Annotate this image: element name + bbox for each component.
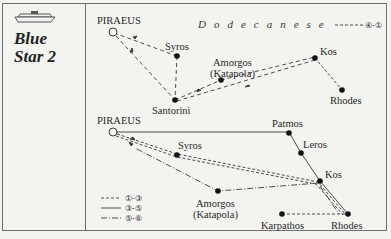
region-label-dodecanese: Dodecanese xyxy=(197,18,332,30)
port-label-amorgos: Amorgos xyxy=(196,198,235,209)
port-label-amorgos-sub: (Katapola) xyxy=(210,68,255,80)
karpathos-marker xyxy=(279,211,285,217)
port-label-santorini: Santorini xyxy=(152,105,191,116)
port-label-leros: Leros xyxy=(303,139,327,150)
top-legend-label: ④-① xyxy=(365,21,382,30)
syros-marker xyxy=(174,152,180,158)
port-label-kos: Kos xyxy=(320,46,337,57)
route-maps: PIRAEUS Syros Amorgos (Katapola) Santori… xyxy=(0,0,391,239)
patmos-marker xyxy=(286,130,292,136)
port-label-patmos: Patmos xyxy=(272,118,303,129)
rhodes-marker xyxy=(339,87,345,93)
port-label-rhodes: Rhodes xyxy=(330,95,362,106)
piraeus-origin-marker xyxy=(109,28,117,36)
top-map-labels: PIRAEUS Syros Amorgos (Katapola) Santori… xyxy=(97,15,382,116)
port-label-rhodes: Rhodes xyxy=(331,220,363,231)
kos-marker xyxy=(317,178,323,184)
port-label-karpathos: Karpathos xyxy=(261,220,304,231)
port-label-piraeus: PIRAEUS xyxy=(97,115,141,126)
kos-marker xyxy=(312,55,318,61)
port-label-kos: Kos xyxy=(325,169,342,180)
legend-label-solid: ③-⑤ xyxy=(125,204,142,213)
leros-marker xyxy=(298,150,304,156)
rhodes-marker xyxy=(345,211,351,217)
legend-label-dashed: ①-③ xyxy=(125,194,142,203)
port-label-amorgos-sub: (Katapola) xyxy=(193,209,238,221)
port-label-piraeus: PIRAEUS xyxy=(97,15,141,26)
port-label-amorgos: Amorgos xyxy=(213,57,252,68)
port-label-syros: Syros xyxy=(165,41,189,52)
santorini-marker xyxy=(172,97,178,103)
port-label-syros: Syros xyxy=(178,140,202,151)
legend-label-dashdot: ⑤-⑥ xyxy=(125,214,142,223)
syros-marker xyxy=(174,53,180,59)
amorgos-marker xyxy=(215,188,221,194)
piraeus-origin-marker xyxy=(109,128,117,136)
